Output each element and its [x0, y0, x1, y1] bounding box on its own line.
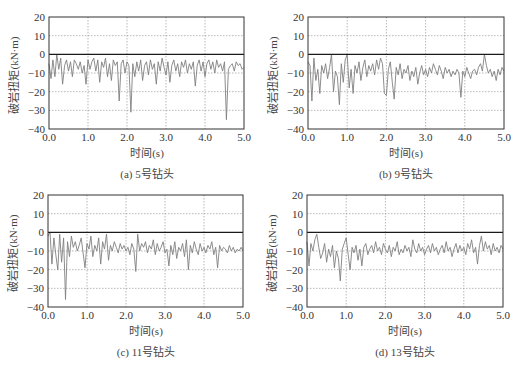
- chart-b-ylabel: 破岩扭矩(kN·m): [264, 15, 280, 135]
- chart-d-ylabel: 破岩扭矩(kN·m): [263, 193, 279, 313]
- x-tick-label: 4.0: [458, 131, 472, 143]
- x-tick-label: 5.0: [237, 131, 251, 143]
- x-tick-label: 3.0: [158, 309, 172, 321]
- y-tick-label: −30: [287, 104, 305, 116]
- y-tick-label: −20: [287, 86, 305, 98]
- chart-a: 0.01.02.03.04.05.020100−10−20−30−40: [28, 11, 252, 143]
- y-tick-label: −20: [27, 264, 45, 276]
- y-tick-label: −40: [28, 123, 46, 135]
- y-tick-label: 20: [292, 189, 304, 201]
- y-tick-label: 10: [33, 208, 45, 220]
- torque-series-line: [49, 54, 244, 119]
- y-tick-label: −10: [27, 245, 45, 257]
- torque-series-line: [307, 234, 503, 281]
- x-tick-label: 3.0: [419, 131, 433, 143]
- x-tick-label: 2.0: [120, 131, 134, 143]
- x-tick-label: 3.0: [418, 309, 432, 321]
- y-tick-label: 0: [39, 226, 45, 238]
- x-tick-label: 4.0: [197, 309, 211, 321]
- chart-canvas: 0.01.02.03.04.05.020100−10−20−30−400.01.…: [0, 0, 520, 370]
- x-tick-label: 5.0: [496, 309, 510, 321]
- y-tick-label: −10: [287, 67, 305, 79]
- y-tick-label: −30: [28, 104, 46, 116]
- y-tick-label: 0: [299, 48, 305, 60]
- chart-d: 0.01.02.03.04.05.020100−10−20−30−40: [286, 189, 511, 321]
- x-tick-label: 1.0: [339, 309, 353, 321]
- chart-c: 0.01.02.03.04.05.020100−10−20−30−40: [27, 189, 251, 321]
- x-tick-label: 3.0: [159, 131, 173, 143]
- y-tick-label: 20: [293, 11, 305, 23]
- chart-b-caption: (b) 9号钻头: [306, 165, 506, 181]
- x-tick-label: 4.0: [198, 131, 212, 143]
- x-tick-label: 5.0: [497, 131, 511, 143]
- x-tick-label: 1.0: [81, 131, 95, 143]
- torque-series-line: [48, 232, 243, 299]
- y-tick-label: −40: [287, 123, 305, 135]
- y-tick-label: −40: [286, 301, 304, 313]
- figure-2x2-torque-charts: 0.01.02.03.04.05.020100−10−20−30−400.01.…: [0, 0, 520, 370]
- y-tick-label: 10: [34, 30, 46, 42]
- y-tick-label: −20: [28, 86, 46, 98]
- chart-d-caption: (d) 13号钻头: [305, 343, 505, 359]
- y-tick-label: 10: [292, 208, 304, 220]
- chart-c-ylabel: 破岩扭矩(kN·m): [4, 193, 20, 313]
- x-tick-label: 1.0: [80, 309, 94, 321]
- y-tick-label: −30: [286, 282, 304, 294]
- chart-c-caption: (c) 11号钻头: [46, 343, 246, 359]
- y-tick-label: 0: [40, 48, 46, 60]
- chart-a-xlabel: 时间(s): [87, 144, 207, 160]
- chart-a-caption: (a) 5号钻头: [47, 165, 247, 181]
- y-tick-label: −10: [286, 245, 304, 257]
- chart-b: 0.01.02.03.04.05.020100−10−20−30−40: [287, 11, 512, 143]
- x-tick-label: 2.0: [379, 309, 393, 321]
- y-tick-label: 20: [34, 11, 46, 23]
- y-tick-label: 20: [33, 189, 45, 201]
- x-tick-label: 4.0: [457, 309, 471, 321]
- x-tick-label: 5.0: [236, 309, 250, 321]
- chart-d-xlabel: 时间(s): [345, 322, 465, 338]
- y-tick-label: −30: [27, 282, 45, 294]
- y-tick-label: −10: [28, 67, 46, 79]
- x-tick-label: 1.0: [340, 131, 354, 143]
- chart-b-xlabel: 时间(s): [346, 144, 466, 160]
- chart-a-ylabel: 破岩扭矩(kN·m): [5, 15, 21, 135]
- y-tick-label: −40: [27, 301, 45, 313]
- chart-c-xlabel: 时间(s): [86, 322, 206, 338]
- x-tick-label: 2.0: [119, 309, 133, 321]
- x-tick-label: 2.0: [380, 131, 394, 143]
- y-tick-label: 10: [293, 30, 305, 42]
- y-tick-label: 0: [298, 226, 304, 238]
- y-tick-label: −20: [286, 264, 304, 276]
- torque-series-line: [308, 54, 504, 104]
